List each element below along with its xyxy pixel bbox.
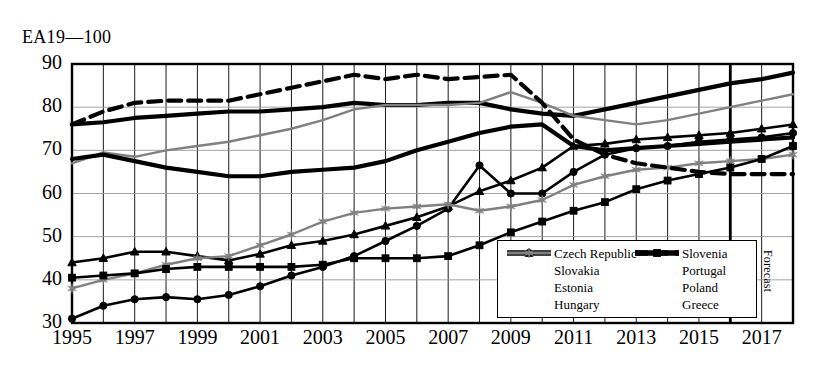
y-tick-60: 60 xyxy=(20,181,62,204)
data-point xyxy=(162,294,169,301)
legend-item-greece: Greece xyxy=(634,297,728,313)
series-greece xyxy=(72,75,793,174)
legend-item-slovakia: Slovakia xyxy=(506,263,637,279)
data-point xyxy=(225,263,232,270)
legend-label: Hungary xyxy=(554,298,600,312)
legend-label: Czech Republic xyxy=(554,247,637,261)
x-tick-1999: 1999 xyxy=(167,326,227,349)
x-tick-2007: 2007 xyxy=(418,326,478,349)
y-tick-80: 80 xyxy=(20,94,62,117)
data-point xyxy=(539,218,546,225)
chart-container: EA19—100 30405060708090 1995199719992001… xyxy=(0,0,813,375)
data-point xyxy=(194,263,201,270)
data-point xyxy=(288,263,295,270)
y-tick-70: 70 xyxy=(20,137,62,160)
y-tick-90: 90 xyxy=(20,51,62,74)
data-point xyxy=(100,302,107,309)
x-tick-2017: 2017 xyxy=(732,326,792,349)
data-point xyxy=(194,296,201,303)
y-tick-40: 40 xyxy=(20,267,62,290)
x-tick-2005: 2005 xyxy=(355,326,415,349)
legend-swatch xyxy=(634,298,680,312)
data-point xyxy=(413,255,420,262)
data-point xyxy=(476,162,483,169)
data-point xyxy=(225,291,232,298)
data-point xyxy=(382,255,389,262)
data-point xyxy=(163,266,170,273)
legend-line-sample xyxy=(634,246,680,260)
forecast-annotation: Forecast xyxy=(760,250,775,292)
data-point xyxy=(664,177,671,184)
legend-line-sample xyxy=(506,246,552,260)
x-tick-1995: 1995 xyxy=(42,326,102,349)
data-point xyxy=(507,190,514,197)
legend-label: Slovakia xyxy=(554,264,600,278)
legend-swatch xyxy=(506,281,552,295)
x-tick-2013: 2013 xyxy=(606,326,666,349)
data-point xyxy=(382,237,389,244)
legend-swatch xyxy=(634,281,680,295)
legend-label: Estonia xyxy=(554,281,593,295)
x-tick-2015: 2015 xyxy=(669,326,729,349)
data-point xyxy=(288,272,295,279)
data-point xyxy=(758,156,765,163)
data-point xyxy=(445,253,452,260)
data-point xyxy=(790,143,797,150)
legend: Czech RepublicSlovakiaEstoniaHungary Slo… xyxy=(497,240,757,318)
legend-column-right: SloveniaPortugalPolandGreece xyxy=(634,246,728,314)
legend-item-hungary: Hungary xyxy=(506,297,637,313)
x-tick-2009: 2009 xyxy=(481,326,541,349)
legend-label: Greece xyxy=(682,298,719,312)
y-tick-50: 50 xyxy=(20,224,62,247)
plot-svg xyxy=(0,0,813,375)
legend-column-left: Czech RepublicSlovakiaEstoniaHungary xyxy=(506,246,637,314)
data-point xyxy=(100,272,107,279)
data-point xyxy=(68,315,75,322)
data-point xyxy=(633,186,640,193)
data-point xyxy=(476,242,483,249)
legend-item-poland: Poland xyxy=(634,280,728,296)
series-line xyxy=(72,75,793,174)
data-point xyxy=(413,222,420,229)
legend-swatch xyxy=(506,298,552,312)
legend-label: Slovenia xyxy=(682,247,728,261)
legend-swatch xyxy=(634,264,680,278)
data-point xyxy=(131,296,138,303)
legend-item-estonia: Estonia xyxy=(506,280,637,296)
legend-item-portugal: Portugal xyxy=(634,263,728,279)
legend-label: Poland xyxy=(682,281,718,295)
x-tick-2001: 2001 xyxy=(230,326,290,349)
data-point xyxy=(602,199,609,206)
data-point xyxy=(570,207,577,214)
data-point xyxy=(256,283,263,290)
data-point xyxy=(727,164,734,171)
legend-swatch xyxy=(506,264,552,278)
data-point xyxy=(319,261,326,268)
data-point xyxy=(69,274,76,281)
x-tick-1997: 1997 xyxy=(105,326,165,349)
legend-label: Portugal xyxy=(682,264,726,278)
data-point xyxy=(257,263,264,270)
data-point xyxy=(131,270,138,277)
x-tick-2003: 2003 xyxy=(293,326,353,349)
data-point xyxy=(507,229,514,236)
x-tick-2011: 2011 xyxy=(544,326,604,349)
data-point xyxy=(570,168,577,175)
data-point xyxy=(351,255,358,262)
